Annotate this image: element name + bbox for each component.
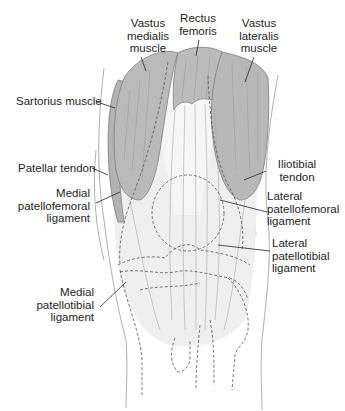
label-rectus-femoris: Rectus femoris — [168, 12, 228, 37]
label-medial-patellofemoral-ligament: Medial patellofemoral ligament — [10, 187, 90, 225]
knee-anatomy-diagram: Vastus medialis muscle Rectus femoris Va… — [0, 0, 345, 411]
label-sartorius-muscle: Sartorius muscle — [16, 95, 102, 108]
label-vastus-lateralis-muscle: Vastus lateralis muscle — [224, 17, 294, 55]
label-patellar-tendon: Patellar tendon — [18, 162, 95, 175]
label-iliotibial-tendon: Iliotibial tendon — [268, 158, 326, 183]
label-medial-patellotibial-ligament: Medial patellotibial ligament — [10, 286, 94, 324]
label-lateral-patellotibial-ligament: Lateral patellotibial ligament — [272, 237, 330, 275]
label-lateral-patellofemoral-ligament: Lateral patellofemoral ligament — [267, 190, 339, 228]
